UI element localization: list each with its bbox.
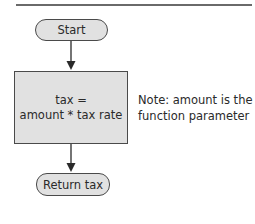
- process-box: tax = amount * tax rate: [14, 71, 128, 144]
- process-line-1: tax =: [55, 93, 87, 108]
- arrow-process-to-return: [67, 144, 76, 172]
- return-terminal: Return tax: [36, 173, 110, 196]
- note-line-2: function parameter: [138, 108, 253, 124]
- start-terminal: Start: [35, 19, 108, 41]
- arrow-start-to-process: [67, 41, 76, 70]
- return-label: Return tax: [43, 178, 103, 192]
- note-annotation: Note: amount is the function parameter: [138, 92, 253, 124]
- process-line-2: amount * tax rate: [20, 108, 123, 123]
- note-line-1: Note: amount is the: [138, 92, 253, 108]
- start-label: Start: [57, 23, 85, 37]
